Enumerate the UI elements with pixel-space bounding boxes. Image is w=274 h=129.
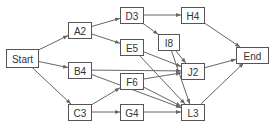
node-end: End <box>237 48 269 64</box>
node-b4: B4 <box>69 63 92 79</box>
edge-e5-to-j2 <box>143 52 181 67</box>
node-e5: E5 <box>121 40 144 56</box>
edge-j2-to-end <box>204 59 236 68</box>
node-a2: A2 <box>69 23 92 39</box>
edge-b4-to-j2 <box>91 70 181 71</box>
edge-c3-to-f6 <box>91 88 120 105</box>
flow-diagram: StartA2D3H4E5I8B4J2EndF6C3G4L3 <box>0 0 274 129</box>
node-label: C3 <box>74 108 87 119</box>
node-label: J2 <box>188 67 199 78</box>
edge-f6-to-j2 <box>143 73 181 79</box>
edge-a2-to-d3 <box>91 18 120 26</box>
edge-a2-to-e5 <box>91 34 120 43</box>
node-g4: G4 <box>121 105 144 121</box>
node-f6: F6 <box>121 74 144 90</box>
node-label: D3 <box>126 11 139 22</box>
node-j2: J2 <box>182 64 205 80</box>
node-label: G4 <box>125 108 139 119</box>
node-c3: C3 <box>69 105 92 121</box>
edge-i8-to-j2 <box>175 50 186 63</box>
node-label: H4 <box>187 11 200 22</box>
node-label: E5 <box>126 43 139 54</box>
node-h4: H4 <box>182 8 205 24</box>
node-i8: I8 <box>159 35 180 51</box>
edge-start-to-a2 <box>38 36 68 51</box>
edge-h4-to-end <box>204 23 240 47</box>
node-label: L3 <box>187 108 199 119</box>
edge-f6-to-l3 <box>143 87 181 106</box>
edge-start-to-c3 <box>32 67 71 104</box>
edges-layer <box>32 15 244 112</box>
node-label: Start <box>12 54 33 65</box>
nodes-layer: StartA2D3H4E5I8B4J2EndF6C3G4L3 <box>7 8 269 121</box>
edge-d3-to-i8 <box>142 23 158 34</box>
node-d3: D3 <box>121 8 144 24</box>
node-label: F6 <box>126 77 138 88</box>
node-label: A2 <box>74 26 87 37</box>
node-start: Start <box>7 50 39 68</box>
edge-l3-to-end <box>201 63 244 104</box>
node-label: I8 <box>165 38 174 49</box>
node-label: B4 <box>74 66 87 77</box>
node-l3: L3 <box>182 105 205 121</box>
edge-start-to-b4 <box>38 61 68 67</box>
node-label: End <box>244 51 262 62</box>
